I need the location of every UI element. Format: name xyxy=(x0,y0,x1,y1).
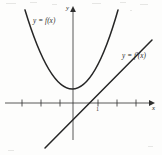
function-and-derivative-graph-figure: y = f(x) y = f′(x) y x 1 xyxy=(0,0,162,155)
derivative-curve-label: y = f′(x) xyxy=(122,52,146,60)
x-tick-label-one: 1 xyxy=(96,106,99,112)
x-axis-label: x xyxy=(152,104,155,111)
y-axis-arrowhead xyxy=(70,6,76,12)
x-axis-group xyxy=(5,100,155,106)
graph-canvas xyxy=(0,0,162,155)
y-axis-label: y xyxy=(66,4,69,11)
function-curve-label: y = f(x) xyxy=(33,17,55,25)
